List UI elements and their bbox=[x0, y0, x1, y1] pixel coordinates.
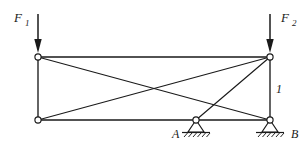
load-arrow-f2 bbox=[266, 14, 273, 53]
support-a-label: A bbox=[171, 127, 180, 141]
joint-top-right bbox=[267, 54, 273, 60]
member-1-label: 1 bbox=[276, 82, 282, 96]
member-diagonal-tr-a bbox=[196, 57, 270, 120]
support-b-hatching bbox=[258, 133, 284, 137]
joint-top-left bbox=[35, 54, 41, 60]
truss-diagram: F 1 F 2 1 A B bbox=[0, 0, 308, 142]
load-arrow-f1 bbox=[34, 14, 41, 53]
joint-support-a bbox=[193, 117, 199, 123]
load-f1-arrowhead bbox=[34, 39, 41, 53]
truss-figure-canvas: F 1 F 2 1 A B bbox=[0, 0, 308, 142]
joint-bottom-left bbox=[35, 117, 41, 123]
load-f1-subscript: 1 bbox=[25, 18, 30, 28]
load-f2-subscript: 2 bbox=[292, 18, 297, 28]
joint-support-b bbox=[267, 117, 273, 123]
load-f1-label: F bbox=[13, 10, 23, 25]
support-a-hatching bbox=[184, 133, 210, 137]
load-f2-label: F bbox=[280, 10, 290, 25]
support-b-label: B bbox=[291, 127, 299, 141]
truss-members bbox=[38, 57, 270, 120]
load-f2-arrowhead bbox=[266, 39, 273, 53]
